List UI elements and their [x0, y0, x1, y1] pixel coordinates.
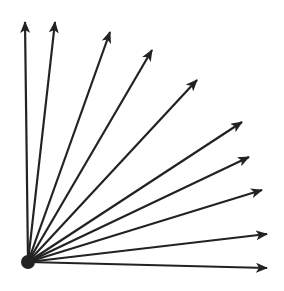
radiating-arrows-diagram — [0, 0, 284, 291]
arrow-10 — [28, 262, 267, 268]
origin-point — [21, 255, 35, 269]
arrow-5 — [28, 80, 197, 262]
arrow-group — [25, 22, 267, 268]
arrow-7 — [28, 157, 249, 262]
arrow-1 — [25, 22, 28, 262]
